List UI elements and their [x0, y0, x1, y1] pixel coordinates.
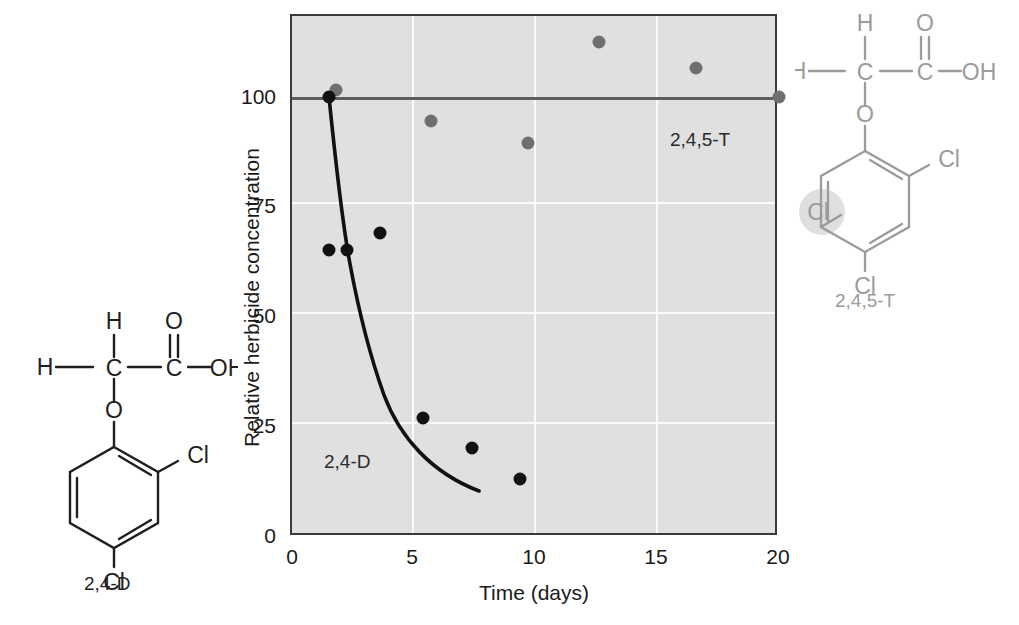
data-point-2-4-d — [417, 412, 430, 425]
x-tick-label-5: 5 — [406, 545, 418, 569]
x-tick-label-15: 15 — [644, 545, 667, 569]
plot-area: 2,4-D 2,4,5-T — [290, 14, 777, 535]
series-label-2-4-5-t: 2,4,5-T — [670, 129, 730, 151]
data-point-2-4-5-t — [593, 36, 606, 49]
data-point-2-4-d — [514, 473, 527, 486]
data-point-2-4-d — [466, 442, 479, 455]
x-tick-label-10: 10 — [522, 545, 545, 569]
x-tick-label-20: 20 — [766, 545, 789, 569]
x-tick-label-0: 0 — [286, 545, 298, 569]
herbicide-degradation-figure: H H C C O OH O Cl Cl 2,4-D — [0, 0, 1019, 625]
y-tick-label-100: 100 — [216, 85, 276, 109]
data-point-2-4-d — [374, 227, 387, 240]
data-point-2-4-5-t — [522, 137, 535, 150]
data-point-2-4-5-t — [773, 91, 786, 104]
data-point-2-4-5-t — [425, 115, 438, 128]
data-point-2-4-d — [323, 91, 336, 104]
data-point-2-4-d — [341, 244, 354, 257]
series-label-2-4-d: 2,4-D — [324, 451, 370, 473]
scatter-plot: 2,4-D 2,4,5-T 100 75 50 25 0 0 5 10 15 2… — [0, 0, 1019, 625]
data-point-2-4-5-t — [690, 62, 703, 75]
x-axis-title: Time (days) — [479, 581, 589, 605]
y-tick-label-0: 0 — [216, 524, 276, 548]
data-point-2-4-d — [323, 244, 336, 257]
y-axis-title: Relative herbicide concentration — [240, 148, 264, 447]
